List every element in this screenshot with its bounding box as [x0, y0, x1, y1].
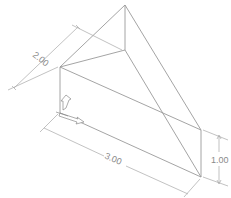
extension-line: [203, 130, 228, 140]
inner-slope-edge: [125, 50, 201, 177]
extension-line: [184, 179, 200, 197]
top-depth-edge: [60, 50, 125, 67]
dimension-line: [126, 166, 188, 194]
extension-line: [40, 114, 58, 132]
depth-label: 2.00: [31, 50, 51, 69]
drawing-canvas: 2.00 3.00 1.00: [0, 0, 231, 198]
outer-slope-edge: [125, 5, 201, 130]
apex-to-left-edge: [60, 5, 125, 67]
dimension-height: 1.00: [203, 130, 229, 186]
extension-line: [203, 177, 228, 186]
dimension-line: [44, 128, 104, 156]
height-label: 1.00: [211, 155, 229, 165]
dimension-depth: 2.00: [8, 25, 122, 90]
length-label: 3.00: [103, 151, 123, 167]
wedge-solid: [60, 5, 201, 177]
dimension-length: 3.00: [40, 114, 200, 197]
